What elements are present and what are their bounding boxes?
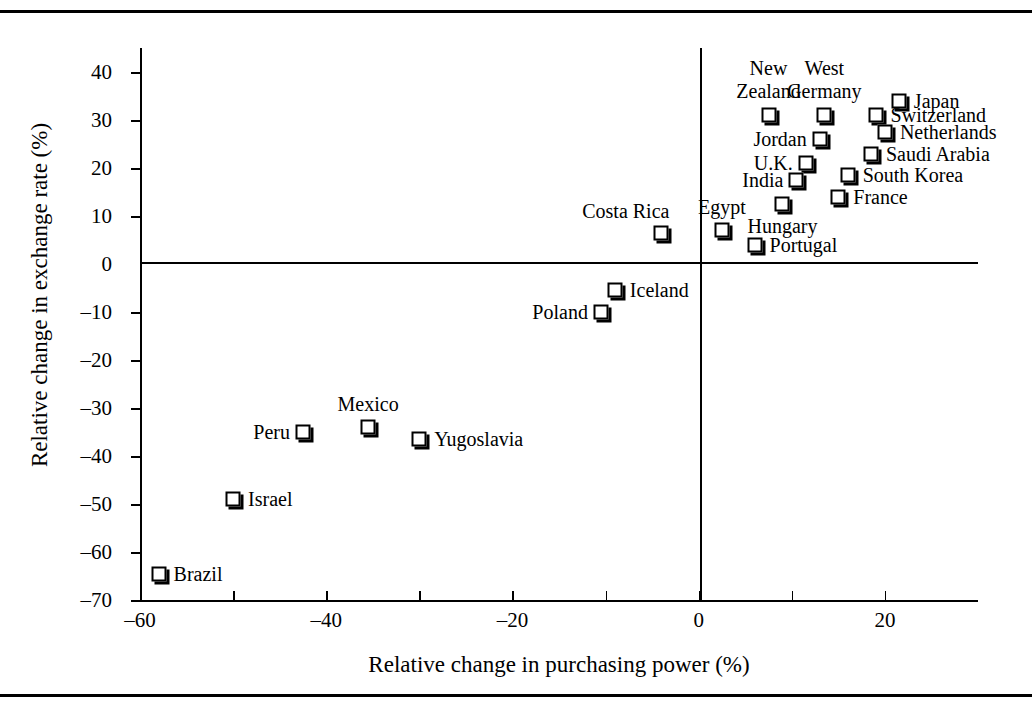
y-axis-tick [131,600,140,602]
y-axis-tick-label: –40 [81,446,113,467]
data-point-marker[interactable] [798,156,813,171]
y-axis-tick-label: 40 [91,62,112,83]
zero-horizontal-reference-line [140,262,978,264]
data-point-marker[interactable] [295,425,310,440]
x-axis-title: Relative change in purchasing power (%) [140,652,978,678]
y-axis-tick-label: 10 [91,206,112,227]
y-axis-tick [131,312,140,314]
x-axis-tick-label: –20 [497,608,529,633]
data-point-marker[interactable] [868,108,883,123]
data-point-marker[interactable] [714,223,729,238]
data-point-marker[interactable] [151,566,166,581]
zero-vertical-reference-line [700,48,702,600]
data-point-label: Israel [248,489,292,509]
data-point-label: Mexico [338,394,399,414]
data-point-label: France [853,187,907,207]
data-point-marker[interactable] [593,305,608,320]
data-point-label: Brazil [174,564,223,584]
data-point-label: NewZealand [736,57,800,103]
y-axis-title: Relative change in exchange rate (%) [27,85,53,505]
x-axis-spine [140,600,978,602]
data-point-label: Yugoslavia [434,429,523,449]
data-point-marker[interactable] [747,237,762,252]
y-axis-tick-label: –60 [81,542,113,563]
x-axis-tick-label: 20 [874,608,895,633]
x-axis-tick [233,591,235,600]
y-axis-tick-label: –10 [81,302,113,323]
data-point-label: Saudi Arabia [886,144,990,164]
x-axis-tick-label: 0 [693,608,704,633]
y-axis-tick-label: 20 [91,158,112,179]
data-point-label: South Korea [863,165,964,185]
y-axis-tick-label: 30 [91,110,112,131]
plot-area: 403020100–10–20–30–40–50–60–70 –60–40–20… [140,48,978,602]
data-point-label: Costa Rica [582,201,669,221]
data-point-marker[interactable] [877,125,892,140]
data-point-label: Jordan [753,129,806,149]
y-axis-tick-label: –30 [81,398,113,419]
data-point-label: Iceland [630,280,689,300]
data-point-label: Peru [253,422,290,442]
x-axis-tick [885,591,887,600]
y-axis-tick-label: –70 [81,590,113,611]
x-axis-tick [419,591,421,600]
data-point-marker[interactable] [607,283,622,298]
x-axis-tick [606,591,608,600]
data-point-label: India [742,170,783,190]
data-point-marker[interactable] [226,492,241,507]
data-point-marker[interactable] [817,108,832,123]
data-point-marker[interactable] [863,146,878,161]
data-point-marker[interactable] [812,132,827,147]
data-point-label: Portugal [770,235,838,255]
x-axis-tick-label: –40 [310,608,342,633]
y-axis-tick [131,120,140,122]
x-axis-tick-label: –60 [124,608,156,633]
data-point-label: Egypt [698,197,746,217]
x-axis-tick [140,591,142,600]
x-axis-tick [326,591,328,600]
y-axis-tick [131,360,140,362]
bottom-divider-rule [0,694,1032,697]
x-axis-tick [792,591,794,600]
y-axis-tick [131,216,140,218]
data-point-marker[interactable] [761,108,776,123]
y-axis-tick [131,552,140,554]
y-axis-tick [131,408,140,410]
x-axis-tick [512,591,514,600]
data-point-marker[interactable] [361,420,376,435]
y-axis-tick [131,504,140,506]
x-axis-tick [699,591,701,600]
top-divider-rule [0,10,1032,13]
y-axis-tick-label: 0 [102,254,113,275]
y-axis-tick [131,168,140,170]
scatter-plot-figure: 403020100–10–20–30–40–50–60–70 –60–40–20… [0,14,1032,690]
y-axis-tick-label: –20 [81,350,113,371]
data-point-marker[interactable] [654,225,669,240]
data-point-marker[interactable] [775,197,790,212]
y-axis-tick-label: –50 [81,494,113,515]
y-axis-spine [140,48,142,602]
y-axis-tick [131,72,140,74]
data-point-label: Poland [532,302,588,322]
data-point-marker[interactable] [840,168,855,183]
data-point-marker[interactable] [412,432,427,447]
data-point-label: Netherlands [900,122,997,142]
data-point-marker[interactable] [831,189,846,204]
y-axis-tick [131,456,140,458]
data-point-marker[interactable] [789,173,804,188]
